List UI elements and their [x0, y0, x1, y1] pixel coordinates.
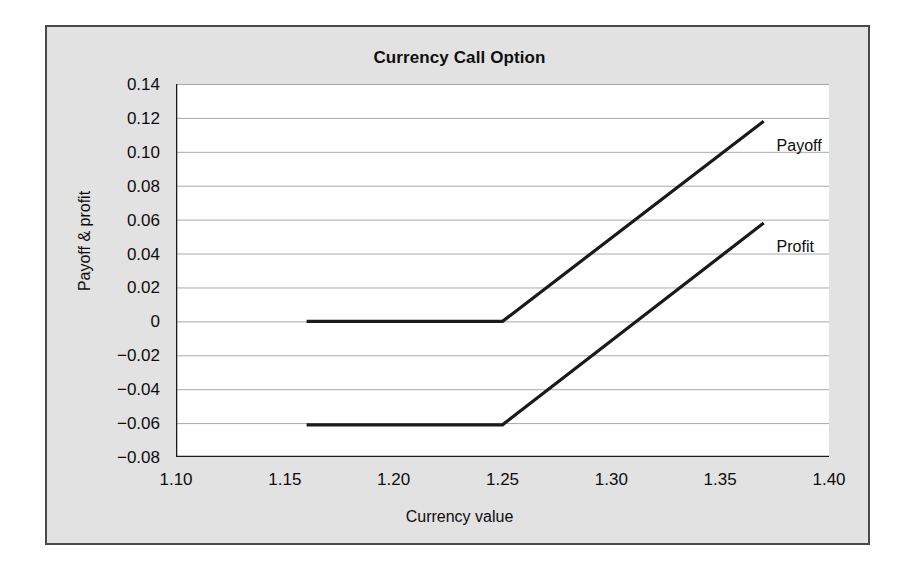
x-axis-tick-label: 1.10	[131, 471, 221, 488]
plot-svg	[176, 84, 829, 457]
x-axis-tick-label: 1.35	[675, 471, 765, 488]
x-axis-tick-label: 1.40	[784, 471, 874, 488]
y-axis-tick-label: 0.12	[50, 110, 160, 127]
y-axis-tick-label: 0.04	[50, 246, 160, 263]
x-axis-tick-label: 1.15	[240, 471, 330, 488]
chart-title: Currency Call Option	[47, 48, 872, 68]
plot-area	[176, 84, 829, 457]
series-label-payoff: Payoff	[777, 138, 822, 154]
series-line-payoff	[307, 121, 764, 321]
x-axis-tick-label: 1.30	[566, 471, 656, 488]
y-axis-tick-label: 0.08	[50, 178, 160, 195]
y-axis-tick-label: −0.08	[50, 449, 160, 466]
y-axis-tick-label: 0.06	[50, 212, 160, 229]
y-axis-tick-label: 0.02	[50, 279, 160, 296]
figure-root: Currency Call Option Payoff & profit 0.1…	[0, 0, 913, 567]
chart-panel: Currency Call Option Payoff & profit 0.1…	[45, 25, 870, 545]
x-axis-tick-label: 1.20	[349, 471, 439, 488]
series-lines	[307, 121, 764, 424]
x-axis-tick-label: 1.25	[458, 471, 548, 488]
series-line-profit	[307, 223, 764, 425]
y-axis-tick-label: 0	[50, 313, 160, 330]
series-label-profit: Profit	[777, 239, 814, 255]
y-axis-tick-label: −0.02	[50, 347, 160, 364]
axis-spines	[176, 84, 829, 457]
axis-tick-marks	[176, 85, 829, 458]
y-axis-tick-label: 0.10	[50, 144, 160, 161]
y-axis-tick-label: 0.14	[50, 76, 160, 93]
y-axis-tick-label: −0.06	[50, 415, 160, 432]
y-axis-tick-label: −0.04	[50, 381, 160, 398]
x-axis-title: Currency value	[47, 508, 872, 526]
gridlines	[176, 85, 829, 458]
